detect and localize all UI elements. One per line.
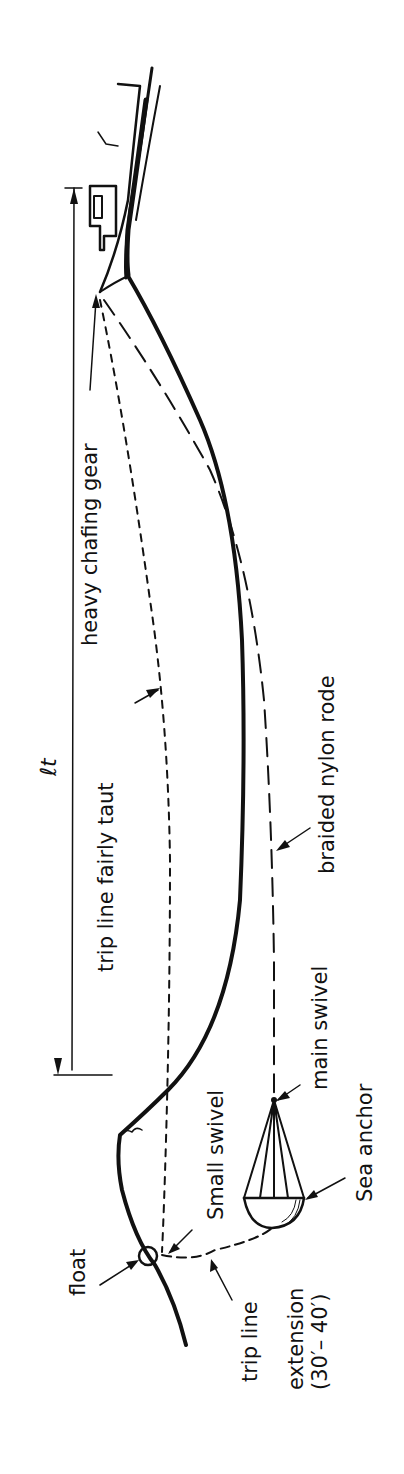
label-main-swivel: main swivel — [310, 966, 331, 1090]
diagram-drawing — [0, 0, 404, 1474]
label-sea-anchor: Sea anchor — [355, 1084, 376, 1202]
label-extension-length: (30′– 40′) — [310, 1293, 331, 1390]
sea-anchor-diagram: ℓt heavy chafing gear trip line fairly t… — [0, 0, 404, 1474]
label-braided-nylon-rode: braided nylon rode — [317, 675, 338, 874]
boat — [90, 68, 160, 292]
label-heavy-chafing-gear: heavy chafing gear — [80, 443, 101, 646]
label-extension: extension — [286, 1288, 307, 1390]
braided-nylon-rode — [104, 300, 274, 1098]
sea-anchor — [244, 1097, 304, 1228]
label-trip-line: trip line — [240, 1301, 261, 1382]
trip-line — [100, 300, 170, 1252]
label-trip-line-fairly-taut: trip line fairly taut — [96, 782, 117, 972]
label-float: float — [68, 1249, 89, 1296]
label-dimension-lt: ℓt — [38, 758, 60, 776]
label-small-swivel: Small swivel — [206, 1090, 227, 1220]
